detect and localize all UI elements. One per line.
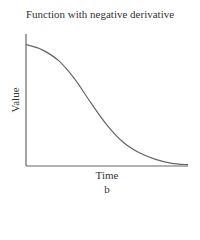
x-axis-label: Time (0, 169, 200, 181)
data-line (26, 45, 188, 165)
subfigure-label: b (0, 183, 200, 195)
